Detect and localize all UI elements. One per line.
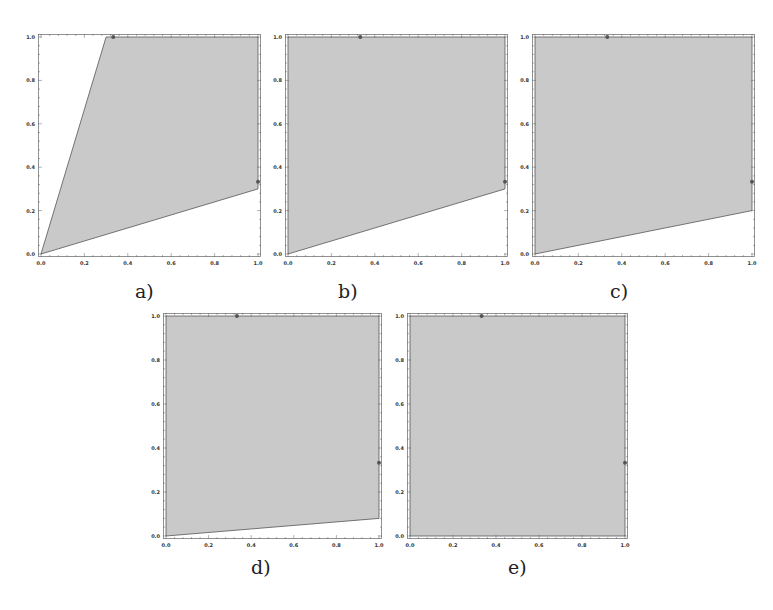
plot-svg: 0.00.20.40.60.81.00.00.20.40.60.81.0: [407, 313, 628, 539]
feasible-region: [288, 37, 505, 254]
x-tick-label: 0.4: [247, 542, 256, 548]
plot-svg: 0.00.20.40.60.81.00.00.20.40.60.81.0: [285, 34, 508, 257]
y-tick-label: 0.2: [520, 208, 529, 214]
y-tick-label: 0.6: [520, 121, 529, 127]
y-tick-label: 1.0: [395, 313, 404, 319]
y-tick-label: 0.8: [273, 77, 282, 83]
y-tick-label: 0.4: [273, 164, 282, 170]
feasible-region: [166, 316, 379, 536]
y-tick-label: 0.6: [151, 401, 160, 407]
y-tick-label: 0.6: [26, 121, 35, 127]
data-point: [111, 35, 115, 39]
x-tick-label: 0.2: [327, 260, 336, 266]
y-tick-label: 1.0: [26, 34, 35, 40]
x-tick-label: 0.0: [531, 260, 540, 266]
data-point: [503, 180, 507, 184]
x-tick-label: 0.4: [123, 260, 132, 266]
y-tick-label: 0.8: [395, 357, 404, 363]
panel-label-b: b): [338, 280, 358, 302]
x-tick-label: 0.6: [414, 260, 423, 266]
y-tick-label: 0.8: [26, 77, 35, 83]
x-tick-label: 1.0: [748, 260, 757, 266]
y-tick-label: 0.0: [151, 533, 160, 539]
y-tick-label: 0.4: [395, 445, 404, 451]
x-tick-label: 0.8: [332, 542, 341, 548]
y-tick-label: 0.2: [273, 208, 282, 214]
y-tick-label: 0.6: [395, 401, 404, 407]
plot-panel-c: 0.00.20.40.60.81.00.00.20.40.60.81.0: [532, 34, 755, 257]
x-tick-label: 0.0: [284, 260, 293, 266]
x-tick-label: 0.4: [492, 542, 501, 548]
x-tick-label: 1.0: [621, 542, 630, 548]
y-tick-label: 0.2: [26, 208, 35, 214]
y-tick-label: 1.0: [151, 313, 160, 319]
y-tick-label: 0.8: [520, 77, 529, 83]
data-point: [235, 314, 239, 318]
x-tick-label: 0.0: [162, 542, 171, 548]
x-tick-label: 0.8: [578, 542, 587, 548]
y-tick-label: 1.0: [273, 34, 282, 40]
x-tick-label: 0.6: [289, 542, 298, 548]
y-tick-label: 0.4: [26, 164, 35, 170]
plot-panel-e: 0.00.20.40.60.81.00.00.20.40.60.81.0: [407, 313, 628, 539]
x-tick-label: 0.6: [167, 260, 176, 266]
x-tick-label: 0.0: [406, 542, 415, 548]
x-tick-label: 0.4: [370, 260, 379, 266]
plot-svg: 0.00.20.40.60.81.00.00.20.40.60.81.0: [38, 34, 261, 257]
plot-svg: 0.00.20.40.60.81.00.00.20.40.60.81.0: [532, 34, 755, 257]
x-tick-label: 0.6: [535, 542, 544, 548]
panel-label-a: a): [135, 280, 154, 302]
feasible-region: [410, 316, 625, 536]
plot-panel-a: 0.00.20.40.60.81.00.00.20.40.60.81.0: [38, 34, 261, 257]
data-point: [358, 35, 362, 39]
y-tick-label: 0.0: [520, 251, 529, 257]
y-tick-label: 1.0: [520, 34, 529, 40]
x-tick-label: 0.2: [204, 542, 213, 548]
y-tick-label: 0.2: [151, 489, 160, 495]
x-tick-label: 0.6: [661, 260, 670, 266]
feasible-region: [41, 37, 258, 254]
y-tick-label: 0.0: [26, 251, 35, 257]
data-point: [480, 314, 484, 318]
y-tick-label: 0.2: [395, 489, 404, 495]
panel-label-d: d): [251, 556, 271, 578]
y-tick-label: 0.0: [395, 533, 404, 539]
x-tick-label: 1.0: [254, 260, 263, 266]
x-tick-label: 0.4: [617, 260, 626, 266]
plot-panel-b: 0.00.20.40.60.81.00.00.20.40.60.81.0: [285, 34, 508, 257]
y-tick-label: 0.4: [151, 445, 160, 451]
data-point: [377, 461, 381, 465]
data-point: [750, 180, 754, 184]
x-tick-label: 0.8: [457, 260, 466, 266]
x-tick-label: 1.0: [375, 542, 384, 548]
x-tick-label: 1.0: [501, 260, 510, 266]
y-tick-label: 0.6: [273, 121, 282, 127]
data-point: [256, 180, 260, 184]
panel-label-e: e): [508, 556, 527, 578]
x-tick-label: 0.2: [574, 260, 583, 266]
x-tick-label: 0.8: [210, 260, 219, 266]
plot-panel-d: 0.00.20.40.60.81.00.00.20.40.60.81.0: [163, 313, 382, 539]
plot-svg: 0.00.20.40.60.81.00.00.20.40.60.81.0: [163, 313, 382, 539]
data-point: [605, 35, 609, 39]
x-tick-label: 0.2: [80, 260, 89, 266]
data-point: [623, 461, 627, 465]
y-tick-label: 0.8: [151, 357, 160, 363]
feasible-region: [535, 37, 752, 254]
x-tick-label: 0.0: [37, 260, 46, 266]
y-tick-label: 0.4: [520, 164, 529, 170]
x-tick-label: 0.2: [449, 542, 458, 548]
panel-label-c: c): [610, 280, 628, 302]
x-tick-label: 0.8: [704, 260, 713, 266]
y-tick-label: 0.0: [273, 251, 282, 257]
